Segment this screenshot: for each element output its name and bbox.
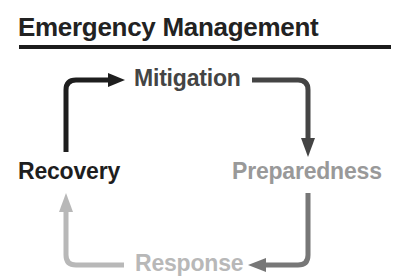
- cycle-arrows: [0, 0, 402, 279]
- node-recovery: Recovery: [18, 158, 120, 185]
- arrow-recovery-to-mitigation: [66, 73, 125, 152]
- arrow-mitigation-to-preparedness: [252, 80, 315, 157]
- node-response: Response: [135, 250, 243, 277]
- node-preparedness: Preparedness: [232, 158, 382, 185]
- node-mitigation: Mitigation: [134, 65, 241, 92]
- arrow-preparedness-to-response: [248, 193, 308, 272]
- arrow-response-to-recovery: [59, 193, 124, 265]
